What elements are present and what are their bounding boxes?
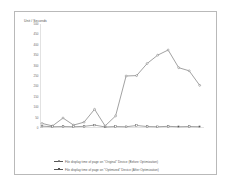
legend-item-optimized: File display time of page on "Optimized"… [54,167,194,172]
plot-area: 050100150200250300350400450500www.google… [40,24,204,128]
data-point [199,126,201,128]
data-point [115,115,117,117]
data-point [62,126,64,128]
data-point [94,124,96,126]
y-axis-tick-label: 450 [33,33,38,36]
data-point [167,125,169,127]
data-point [146,63,148,65]
legend-label-optimized: File display time of page on "Optimized"… [65,168,159,172]
y-axis-tick-label: 100 [33,106,38,109]
data-point [94,108,96,110]
y-axis-tick-label: 250 [33,75,38,78]
data-point [136,125,138,127]
legend-marker-circle-icon [54,160,63,163]
data-point [125,126,127,128]
data-point [52,126,54,128]
data-point [62,117,64,119]
y-axis-tick-label: 0 [37,127,39,130]
legend-marker-square-icon [54,168,63,171]
y-axis-tick-label: 300 [33,64,38,67]
line-chart-svg [40,24,204,128]
data-point [199,84,201,86]
data-point [41,125,43,127]
y-axis-tick-label: 500 [33,23,38,26]
legend-item-original: File display time of page on "Original" … [54,159,194,164]
series-line-0 [42,50,200,126]
data-point [115,126,117,128]
legend-label-original: File display time of page on "Original" … [65,160,158,164]
chart-axes [40,24,204,128]
data-point [104,126,106,128]
chart-page: Unit / Seconds 0501001502002503003504004… [0,0,231,187]
data-point [125,75,127,77]
data-point [157,126,159,128]
chart-legend: File display time of page on "Original" … [54,159,194,175]
data-point [73,126,75,128]
y-axis-tick-label: 150 [33,95,38,98]
data-point [83,125,85,127]
y-axis-tick-label: 350 [33,54,38,57]
series-line-1 [42,125,200,127]
data-point [146,126,148,128]
data-point [188,70,190,72]
y-axis-tick-label: 200 [33,85,38,88]
data-point [188,126,190,128]
data-point [178,126,180,128]
y-axis-tick-label: 400 [33,43,38,46]
data-point [178,67,180,69]
y-axis-tick-label: 50 [35,116,38,119]
data-point [157,54,159,56]
data-point [83,121,85,123]
data-point [167,49,169,51]
data-point [41,122,43,124]
data-point [136,75,138,77]
